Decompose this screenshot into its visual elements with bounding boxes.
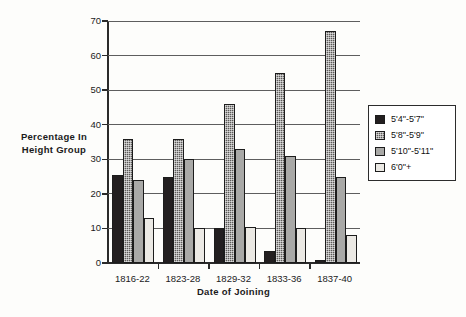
bar: [325, 31, 336, 263]
gridline: [107, 55, 360, 56]
bar: [224, 104, 235, 263]
bar: [184, 159, 195, 263]
legend-item[interactable]: 5'4"-5'7": [375, 111, 450, 127]
bar: [346, 235, 357, 263]
gridline: [107, 21, 360, 22]
y-axis-tick: [102, 89, 108, 90]
legend: 5'4"-5'7"5'8"-5'9"5'10"-5'11"6'0"+: [368, 105, 456, 181]
bar: [315, 260, 326, 263]
y-axis-tick-label: 40: [79, 120, 101, 130]
x-axis-tick: [309, 262, 310, 269]
legend-label: 5'10"-5'11": [391, 146, 433, 156]
x-axis-category-label: 1837-40: [303, 273, 367, 284]
y-axis-tick-label: 70: [79, 16, 101, 26]
y-axis-tick: [102, 55, 108, 56]
bar: [235, 149, 246, 263]
bar: [264, 251, 275, 263]
y-axis-tick-label: 30: [79, 154, 101, 164]
y-axis-tick-label: 10: [79, 223, 101, 233]
y-axis-tick: [102, 228, 108, 229]
bar: [194, 228, 205, 263]
legend-label: 6'0"+: [391, 162, 411, 172]
legend-swatch-icon: [375, 131, 385, 140]
bar: [173, 139, 184, 263]
x-axis-title: Date of Joining: [107, 286, 360, 297]
y-axis-tick-label: 60: [79, 51, 101, 61]
bar: [144, 218, 155, 263]
legend-swatch-icon: [375, 115, 385, 124]
bar: [275, 73, 286, 263]
y-axis-tick-label: 20: [79, 189, 101, 199]
bar: [245, 227, 256, 263]
y-axis-tick-label: 50: [79, 85, 101, 95]
legend-swatch-icon: [375, 147, 385, 156]
bar: [285, 156, 296, 263]
bar: [296, 228, 307, 263]
chart-figure: Percentage In Height Group 0102030405060…: [0, 0, 466, 317]
y-axis-tick: [102, 124, 108, 125]
y-axis-line: [107, 21, 109, 263]
x-axis-tick: [208, 262, 209, 269]
y-axis-tick: [102, 159, 108, 160]
legend-label: 5'4"-5'7": [391, 114, 424, 124]
y-axis-tick-label: 0: [79, 258, 101, 268]
legend-item[interactable]: 5'10"-5'11": [375, 143, 450, 159]
x-axis-tick: [259, 262, 260, 269]
bar: [133, 180, 144, 263]
plot-area: 010203040506070 1816-221823-281829-32183…: [107, 21, 360, 263]
gridline: [107, 90, 360, 91]
bar: [112, 175, 123, 263]
legend-item[interactable]: 6'0"+: [375, 159, 450, 175]
legend-swatch-icon: [375, 163, 385, 172]
bar: [123, 139, 134, 263]
x-axis-tick: [158, 262, 159, 269]
y-axis-tick: [102, 193, 108, 194]
bar: [214, 228, 225, 263]
y-axis-tick: [102, 262, 108, 263]
legend-item[interactable]: 5'8"-5'9": [375, 127, 450, 143]
bar: [163, 177, 174, 263]
legend-label: 5'8"-5'9": [391, 130, 424, 140]
y-axis-tick-labels: 010203040506070: [75, 21, 101, 263]
bar: [336, 177, 347, 263]
y-axis-tick: [102, 20, 108, 21]
